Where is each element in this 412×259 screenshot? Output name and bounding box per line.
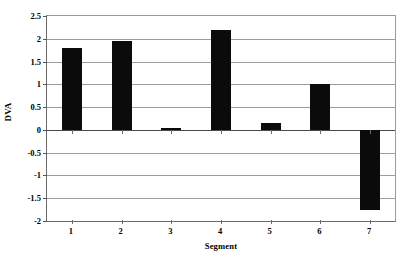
y-axis-tick-label: 2 bbox=[37, 34, 41, 44]
x-axis-tick bbox=[370, 220, 371, 224]
y-axis-tick bbox=[43, 175, 47, 176]
bar bbox=[62, 48, 82, 130]
y-axis-tick bbox=[43, 221, 47, 222]
x-axis-tick bbox=[370, 130, 371, 134]
x-axis-tick bbox=[320, 130, 321, 134]
y-axis-tick-label: 0 bbox=[37, 125, 41, 135]
y-axis-tick-label: -0.5 bbox=[28, 148, 41, 158]
x-axis-tick bbox=[221, 220, 222, 224]
gridline bbox=[47, 175, 395, 176]
x-axis-tick bbox=[271, 130, 272, 134]
x-axis-tick-label: 7 bbox=[367, 226, 371, 236]
y-axis-tick bbox=[43, 84, 47, 85]
x-axis-tick-label: 5 bbox=[268, 226, 272, 236]
y-axis-tick-label: 0.5 bbox=[30, 102, 41, 112]
bar bbox=[261, 123, 281, 130]
bar bbox=[211, 30, 231, 130]
x-axis-tick bbox=[171, 130, 172, 134]
x-axis-tick-label: 1 bbox=[69, 226, 73, 236]
plot-area: 2.521.510.50-0.5-1-1.5-2 bbox=[46, 15, 396, 222]
y-axis-tick bbox=[43, 130, 47, 131]
y-axis-tick bbox=[43, 198, 47, 199]
y-axis-tick bbox=[43, 39, 47, 40]
bar bbox=[112, 41, 132, 130]
bar-chart: DVA 2.521.510.50-0.5-1-1.5-2 1234567 Seg… bbox=[0, 0, 412, 259]
x-axis-tick-label: 3 bbox=[168, 226, 172, 236]
y-axis-title: DVA bbox=[3, 87, 13, 137]
x-axis-tick bbox=[72, 220, 73, 224]
x-axis-title: Segment bbox=[46, 241, 396, 251]
y-axis-tick bbox=[43, 16, 47, 17]
y-axis-tick bbox=[43, 153, 47, 154]
bar bbox=[360, 130, 380, 210]
gridline bbox=[47, 153, 395, 154]
y-axis-tick-label: -1.5 bbox=[28, 193, 41, 203]
y-axis-tick bbox=[43, 107, 47, 108]
y-axis-tick-label: 1 bbox=[37, 79, 41, 89]
x-axis-tick bbox=[171, 220, 172, 224]
x-axis-tick bbox=[221, 130, 222, 134]
x-axis-tick-label: 6 bbox=[317, 226, 321, 236]
bar bbox=[310, 84, 330, 130]
gridline bbox=[47, 198, 395, 199]
y-axis-tick-label: -1 bbox=[34, 170, 41, 180]
x-axis-tick bbox=[122, 130, 123, 134]
y-axis-tick-label: 2.5 bbox=[30, 11, 41, 21]
y-axis-tick-label: 1.5 bbox=[30, 57, 41, 67]
x-axis-tick bbox=[72, 130, 73, 134]
y-axis-tick bbox=[43, 62, 47, 63]
x-axis-tick bbox=[271, 220, 272, 224]
x-axis-tick bbox=[320, 220, 321, 224]
x-axis-tick-label: 2 bbox=[118, 226, 122, 236]
x-axis-tick-labels: 1234567 bbox=[46, 226, 396, 240]
y-axis-tick-label: -2 bbox=[34, 216, 41, 226]
x-axis-tick-label: 4 bbox=[218, 226, 222, 236]
x-axis-tick bbox=[122, 220, 123, 224]
